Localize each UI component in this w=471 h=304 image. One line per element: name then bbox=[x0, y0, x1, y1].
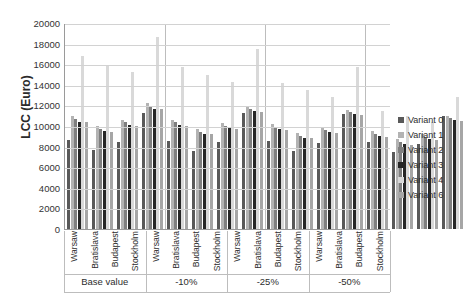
x-axis-city-tick-label: Budapest bbox=[354, 231, 364, 275]
x-axis-scenario-label: -10% bbox=[146, 276, 228, 292]
y-axis-tick-labels: 2000018000160001400012000100008000600040… bbox=[12, 19, 60, 231]
bar bbox=[235, 129, 238, 229]
y-axis-tick: 20000 bbox=[12, 19, 60, 29]
x-axis-city-tick-label: Budapest bbox=[110, 231, 120, 275]
x-axis-city-tick: Bratislava bbox=[329, 231, 349, 275]
x-axis-city-tick: Budapest bbox=[105, 231, 125, 275]
gridline bbox=[65, 168, 390, 169]
x-axis-city-tick: Warsaw bbox=[227, 231, 247, 275]
bar bbox=[110, 132, 113, 229]
x-axis-city-tick-label: Stockholm bbox=[375, 231, 385, 275]
legend-item-label: Variant 4 bbox=[408, 175, 443, 185]
bar bbox=[185, 126, 188, 230]
legend-swatch-icon bbox=[398, 177, 404, 183]
plot-area bbox=[64, 24, 390, 230]
x-axis-city-tick: Warsaw bbox=[64, 231, 84, 275]
x-axis-city-tick-label: Budapest bbox=[191, 231, 201, 275]
x-axis-city-tick-label: Warsaw bbox=[69, 231, 79, 275]
legend-item[interactable]: Variant 0 bbox=[398, 112, 468, 127]
y-axis-tick: 4000 bbox=[12, 184, 60, 194]
x-axis-city-tick: Warsaw bbox=[146, 231, 166, 275]
gridline bbox=[65, 127, 390, 128]
gridline bbox=[65, 86, 390, 87]
legend-item-label: Variant 0 bbox=[408, 115, 443, 125]
legend-item-label: Variant 2 bbox=[408, 145, 443, 155]
x-axis-city-tick-label: Bratislava bbox=[171, 231, 181, 275]
x-axis-city-tick-label: Bratislava bbox=[253, 231, 263, 275]
y-axis-tick: 6000 bbox=[12, 163, 60, 173]
x-axis-scenario-label: -25% bbox=[227, 276, 309, 292]
y-axis-tick: 8000 bbox=[12, 143, 60, 153]
x-axis-city-tick-label: Warsaw bbox=[314, 231, 324, 275]
x-axis-city-tick: Budapest bbox=[349, 231, 369, 275]
bar bbox=[360, 115, 363, 229]
y-axis-tick: 16000 bbox=[12, 60, 60, 70]
legend-item[interactable]: Variant 2 bbox=[398, 142, 468, 157]
gridline bbox=[65, 24, 390, 25]
y-axis-tick: 14000 bbox=[12, 81, 60, 91]
gridline bbox=[65, 148, 390, 149]
x-axis-city-tick-label: Stockholm bbox=[130, 231, 140, 275]
y-axis-tick: 18000 bbox=[12, 40, 60, 50]
x-axis-city-tick: Budapest bbox=[186, 231, 206, 275]
legend-swatch-icon bbox=[398, 132, 404, 138]
x-axis-bottom-line bbox=[64, 292, 390, 293]
section-separator bbox=[146, 231, 147, 292]
x-axis-city-tick-label: Stockholm bbox=[212, 231, 222, 275]
x-axis-city-tick-label: Bratislava bbox=[334, 231, 344, 275]
x-axis-city-tick: Stockholm bbox=[370, 231, 390, 275]
y-axis-tick: 2000 bbox=[12, 204, 60, 214]
x-axis-scenario-label: -50% bbox=[309, 276, 391, 292]
y-axis-tick: 0 bbox=[12, 225, 60, 235]
bar bbox=[135, 126, 138, 230]
legend-item[interactable]: Variant 6 bbox=[398, 187, 468, 202]
bar bbox=[85, 122, 88, 229]
y-axis-tick: 12000 bbox=[12, 101, 60, 111]
bar bbox=[385, 137, 388, 229]
x-axis-city-tick: Bratislava bbox=[166, 231, 186, 275]
bar bbox=[260, 112, 263, 229]
legend-item-label: Variant 6 bbox=[408, 190, 443, 200]
section-separator-edge bbox=[390, 231, 391, 292]
gridline bbox=[65, 106, 390, 107]
bar bbox=[285, 130, 288, 229]
y-axis-tick: 10000 bbox=[12, 122, 60, 132]
legend-item-label: Variant 1 bbox=[408, 130, 443, 140]
x-axis-city-tick-label: Warsaw bbox=[151, 231, 161, 275]
x-axis-city-tick-label: Budapest bbox=[273, 231, 283, 275]
x-axis-city-tick: Stockholm bbox=[288, 231, 308, 275]
bar bbox=[310, 138, 313, 229]
x-axis-city-tick-label: Bratislava bbox=[90, 231, 100, 275]
legend-item[interactable]: Variant 1 bbox=[398, 127, 468, 142]
section-separator bbox=[227, 231, 228, 292]
section-separator-edge bbox=[64, 231, 65, 292]
gridline bbox=[65, 209, 390, 210]
x-axis-city-tick-label: Warsaw bbox=[232, 231, 242, 275]
legend-item[interactable]: Variant 4 bbox=[398, 172, 468, 187]
x-section: WarsawBratislavaBudapestStockholm bbox=[227, 231, 309, 275]
x-section: WarsawBratislavaBudapestStockholm bbox=[309, 231, 391, 275]
x-axis-city-tick: Bratislava bbox=[247, 231, 267, 275]
bar-chart: LCC (Euro) 20000180001600014000120001000… bbox=[0, 0, 471, 304]
legend-swatch-icon bbox=[398, 162, 404, 168]
legend: Variant 0Variant 1Variant 2Variant 3Vari… bbox=[398, 112, 468, 202]
legend-swatch-icon bbox=[398, 147, 404, 153]
section-separator bbox=[309, 231, 310, 292]
legend-swatch-icon bbox=[398, 192, 404, 198]
x-axis-city-tick: Stockholm bbox=[125, 231, 145, 275]
legend-swatch-icon bbox=[398, 117, 404, 123]
x-axis-city-tick-label: Stockholm bbox=[293, 231, 303, 275]
x-axis-city-tick: Bratislava bbox=[84, 231, 104, 275]
gridline bbox=[65, 189, 390, 190]
gridline bbox=[65, 45, 390, 46]
x-axis-scenario-label: Base value bbox=[64, 276, 146, 292]
x-section: WarsawBratislavaBudapestStockholm bbox=[146, 231, 228, 275]
x-axis-city-tick: Stockholm bbox=[207, 231, 227, 275]
x-axis-city-tick: Warsaw bbox=[309, 231, 329, 275]
legend-item[interactable]: Variant 3 bbox=[398, 157, 468, 172]
x-section: WarsawBratislavaBudapestStockholm bbox=[64, 231, 146, 275]
gridline bbox=[65, 65, 390, 66]
x-axis-city-tick: Budapest bbox=[268, 231, 288, 275]
legend-item-label: Variant 3 bbox=[408, 160, 443, 170]
